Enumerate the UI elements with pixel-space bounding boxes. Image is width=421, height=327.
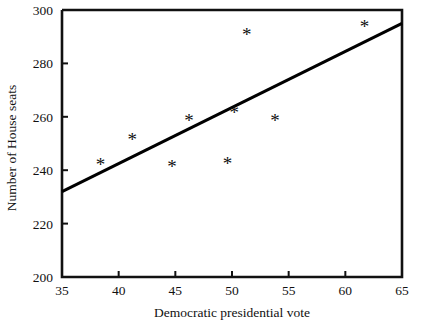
x-axis-tick-labels: 35404550556065	[55, 283, 409, 298]
y-axis-title: Number of House seats	[4, 85, 19, 211]
y-tick-label: 260	[33, 110, 54, 125]
y-tick-label: 300	[33, 3, 54, 18]
y-tick-label: 240	[33, 163, 54, 178]
x-tick-label: 40	[112, 283, 126, 298]
data-point-marker: *	[230, 102, 240, 123]
y-tick-label: 220	[33, 217, 54, 232]
x-axis-title: Democratic presidential vote	[154, 305, 310, 320]
data-point-marker: *	[184, 110, 194, 131]
data-point-marker: *	[96, 154, 106, 175]
x-tick-label: 55	[282, 283, 296, 298]
scatter-plot-figure: ********* 35404550556065 200220240260280…	[0, 0, 421, 327]
data-point-markers: *********	[96, 16, 370, 177]
x-tick-label: 65	[395, 283, 409, 298]
data-point-marker: *	[223, 153, 233, 174]
data-point-marker: *	[167, 156, 177, 177]
data-point-marker: *	[242, 24, 252, 45]
x-tick-label: 45	[169, 283, 183, 298]
plot-canvas: ********* 35404550556065 200220240260280…	[0, 0, 421, 327]
y-tick-label: 200	[33, 270, 54, 285]
x-tick-label: 50	[225, 283, 239, 298]
y-tick-label: 280	[33, 56, 54, 71]
x-tick-label: 35	[55, 283, 69, 298]
data-point-marker: *	[360, 16, 370, 37]
data-point-marker: *	[128, 129, 138, 150]
x-tick-label: 60	[339, 283, 353, 298]
data-point-marker: *	[270, 110, 280, 131]
y-axis-tick-labels: 200220240260280300	[33, 3, 54, 285]
